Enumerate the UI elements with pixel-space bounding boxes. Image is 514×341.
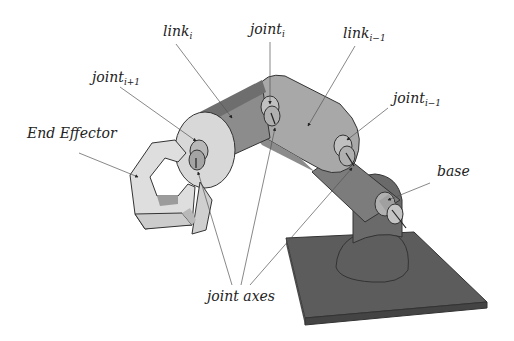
label-end-effector: End Effector <box>26 125 118 141</box>
label-joint-i-minus-1: jointi−1 <box>390 90 441 108</box>
label-link-i-minus-1: linki−1 <box>343 25 386 43</box>
label-joint-i-plus-1: jointi+1 <box>89 69 140 87</box>
label-joint-i: jointi <box>247 21 285 39</box>
label-link-i: linki <box>163 23 192 41</box>
leader-axes-2 <box>241 128 275 285</box>
label-base: base <box>437 163 470 179</box>
end-effector-gripper <box>130 140 196 229</box>
leader-end-effector <box>79 153 138 177</box>
leader-link-i <box>176 44 232 118</box>
robot-arm-diagram: linki jointi linki−1 jointi+1 jointi−1 E… <box>0 0 514 341</box>
label-joint-axes: joint axes <box>204 288 275 304</box>
leader-joint-i-plus-1 <box>120 87 196 141</box>
